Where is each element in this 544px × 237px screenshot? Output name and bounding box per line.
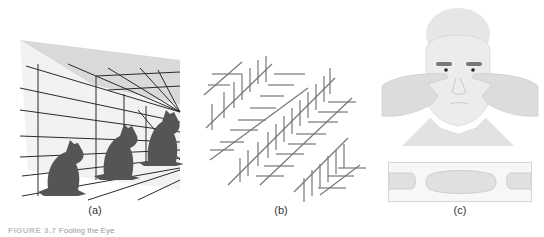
- panel-b-label: (b): [261, 204, 301, 216]
- panel-c-label: (c): [440, 204, 480, 216]
- figure-caption: FIGURE 3.7 Fooling the Eye: [8, 226, 114, 235]
- figure-title: Fooling the Eye: [59, 226, 115, 235]
- panel-c-finger-sausage: [380, 0, 540, 205]
- corridor-illustration: [8, 30, 183, 205]
- zollner-lines-illustration: [190, 20, 370, 210]
- finger-sausage-inset: [388, 162, 532, 202]
- panel-a-label: (a): [75, 204, 115, 216]
- panel-b-zollner-illusion: [190, 20, 370, 210]
- figure-number: FIGURE 3.7: [8, 226, 57, 235]
- floating-finger-illustration: [389, 163, 531, 201]
- panel-a-cats-corridor: [8, 30, 183, 205]
